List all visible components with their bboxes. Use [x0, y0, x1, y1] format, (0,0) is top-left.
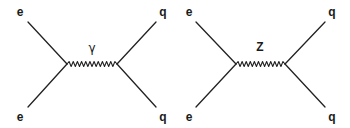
quark-label-q-top: q [159, 6, 166, 18]
quark-label-q-bottom: q [328, 111, 335, 123]
fermion-line [28, 64, 67, 107]
fermion-label-e-bottom: e [17, 111, 24, 123]
fermion-label-e-top: e [17, 6, 24, 18]
fermion-label-e-bottom: e [186, 111, 193, 123]
fermion-label-e-top: e [186, 6, 193, 18]
quark-label-q-top: q [328, 6, 335, 18]
fermion-line [285, 64, 325, 107]
quark-label-q-bottom: q [159, 111, 166, 123]
boson-propagator-wavy-line [67, 62, 117, 67]
diagram-canvas [0, 0, 350, 128]
fermion-line [285, 22, 325, 64]
boson-propagator-wavy-line [236, 62, 285, 67]
boson-label-z: Z [256, 41, 263, 53]
fermion-line [117, 22, 156, 64]
fermion-line [196, 22, 236, 64]
boson-label-photon: γ [88, 42, 95, 54]
fermion-line [117, 64, 156, 107]
fermion-line [28, 22, 67, 64]
fermion-line [196, 64, 236, 107]
